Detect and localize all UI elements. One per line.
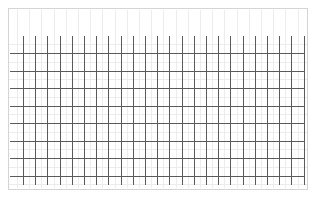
- grid-vertical-line: [279, 36, 280, 185]
- grid-horizontal-line: [10, 71, 305, 72]
- grid-vertical-line: [194, 36, 195, 185]
- grid-vertical-line: [84, 36, 85, 185]
- grid-horizontal-line: [10, 176, 305, 177]
- grid-vertical-line: [230, 36, 231, 185]
- grid-vertical-line: [145, 36, 146, 185]
- grid-vertical-line: [108, 36, 109, 185]
- grid-horizontal-line: [10, 106, 305, 107]
- grid-horizontal-line: [10, 141, 305, 142]
- gridline-layer: [0, 0, 316, 198]
- grid-vertical-line: [23, 36, 24, 185]
- grid-vertical-line: [182, 36, 183, 185]
- grid-vertical-line: [157, 36, 158, 185]
- figure-canvas: [0, 0, 316, 198]
- grid-vertical-line: [291, 36, 292, 185]
- grid-vertical-line: [206, 36, 207, 185]
- grid-horizontal-line: [10, 123, 305, 124]
- grid-vertical-line: [267, 36, 268, 185]
- grid-vertical-line: [255, 36, 256, 185]
- grid-horizontal-line: [10, 158, 305, 159]
- grid-horizontal-line: [10, 88, 305, 89]
- grid-horizontal-line: [10, 53, 305, 54]
- grid-vertical-line: [72, 36, 73, 185]
- grid-vertical-line: [35, 36, 36, 185]
- grid-vertical-line: [96, 36, 97, 185]
- grid-vertical-line: [218, 36, 219, 185]
- grid-vertical-line: [133, 36, 134, 185]
- grid-vertical-line: [47, 36, 48, 185]
- grid-vertical-line: [243, 36, 244, 185]
- grid-vertical-line: [304, 36, 305, 185]
- grid-vertical-line: [60, 36, 61, 185]
- grid-vertical-line: [169, 36, 170, 185]
- grid-vertical-line: [121, 36, 122, 185]
